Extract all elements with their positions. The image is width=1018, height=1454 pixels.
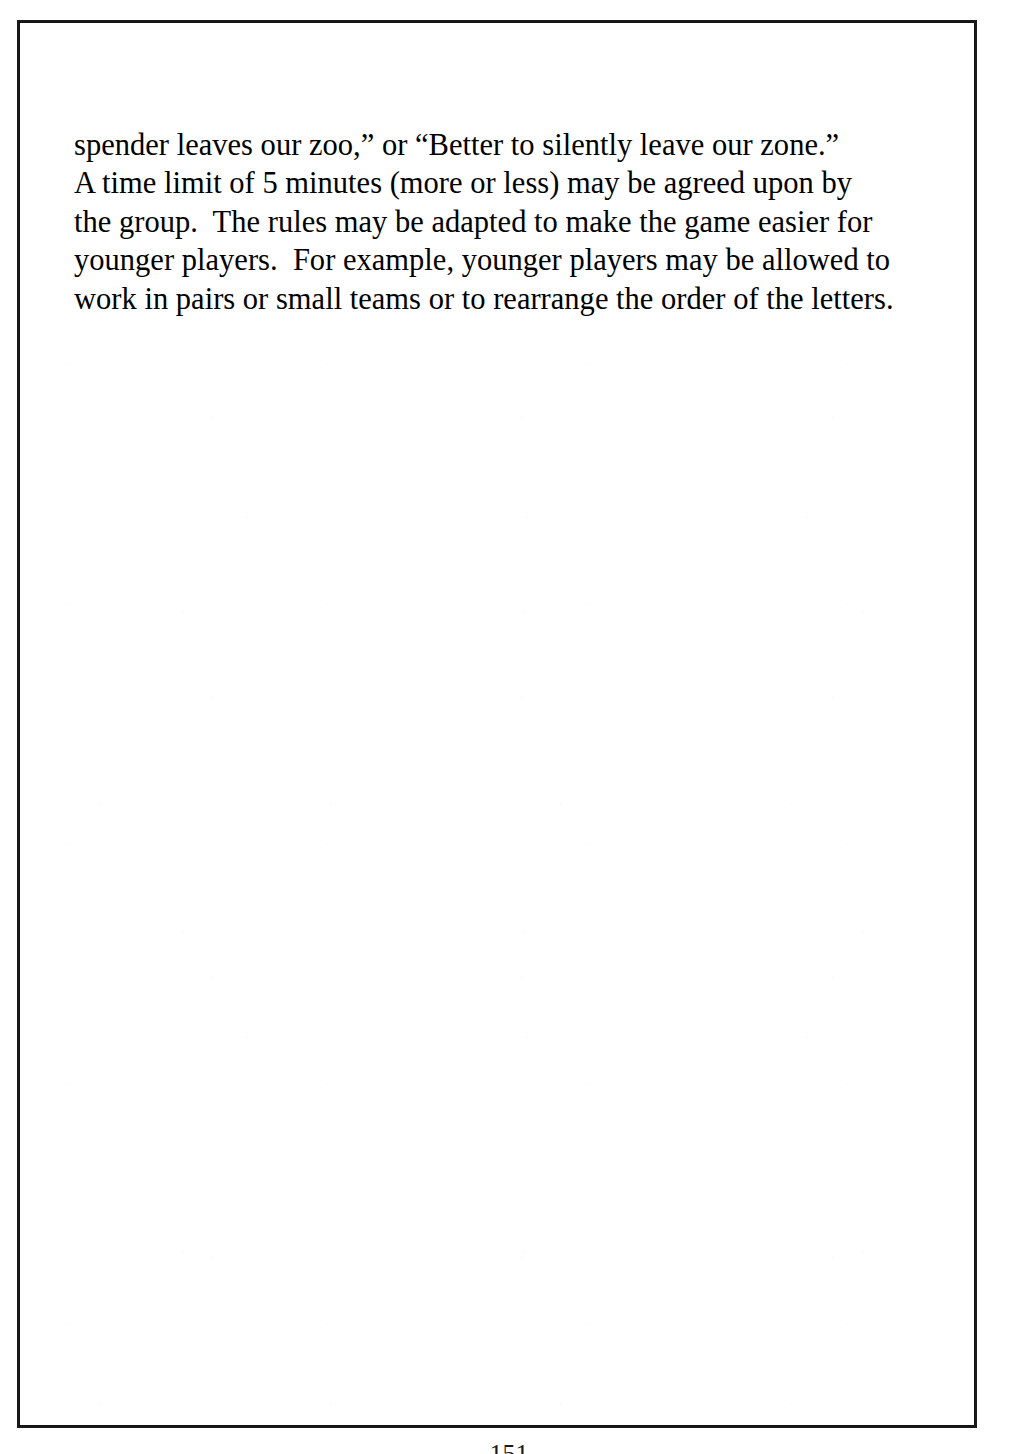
body-line: A time limit of 5 minutes (more or less)… bbox=[74, 164, 954, 202]
body-line: the group. The rules may be adapted to m… bbox=[74, 203, 954, 241]
page-number: 151 bbox=[0, 1441, 1018, 1454]
body-line: spender leaves our zoo,” or “Better to s… bbox=[74, 126, 954, 164]
body-line: work in pairs or small teams or to rearr… bbox=[74, 280, 954, 318]
body-text-block: spender leaves our zoo,” or “Better to s… bbox=[74, 126, 954, 318]
body-line: younger players. For example, younger pl… bbox=[74, 241, 954, 279]
scanned-page: spender leaves our zoo,” or “Better to s… bbox=[0, 0, 1018, 1454]
